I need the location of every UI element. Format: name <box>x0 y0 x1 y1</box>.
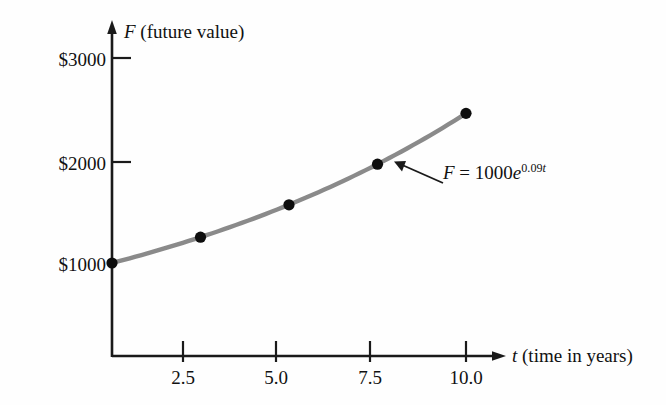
x-tick-label-2point5: 2.5 <box>153 368 213 387</box>
x-axis-arrowhead <box>492 351 506 361</box>
equation-equals: = 1000 <box>455 162 513 183</box>
x-tick-label-5point0: 5.0 <box>246 368 306 387</box>
equation-annotation: F = 1000e0.09t <box>443 163 546 182</box>
equation-exponent-number: 0.09 <box>521 161 542 175</box>
x-axis-title-text: (time in years) <box>517 345 633 366</box>
equation-lhs-symbol: F <box>443 162 455 183</box>
data-point-t7point5 <box>372 159 383 170</box>
y-axis-arrowhead <box>107 20 117 34</box>
x-tick-label-10point0: 10.0 <box>436 368 496 387</box>
x-tick-label-7point5: 7.5 <box>340 368 400 387</box>
y-tick-label-1000: $1000 <box>28 255 106 274</box>
y-axis-symbol: F <box>124 21 136 42</box>
figure-container: F (future value) t (time in years) $3000… <box>0 0 666 405</box>
data-point-t0 <box>106 257 117 268</box>
equation-exponent-symbol: t <box>543 161 546 175</box>
equation-exponent: 0.09t <box>521 161 546 175</box>
x-axis-title: t (time in years) <box>512 346 633 365</box>
data-point-t2point5 <box>195 232 206 243</box>
y-tick-label-2000: $2000 <box>28 154 106 173</box>
exponential-curve <box>112 113 466 263</box>
y-tick-label-3000: $3000 <box>28 50 106 69</box>
data-point-t10point0 <box>460 108 471 119</box>
y-axis-title-text: (future value) <box>136 21 245 42</box>
data-point-t5point0 <box>283 199 294 210</box>
y-axis-title: F (future value) <box>124 22 244 41</box>
equation-base-symbol: e <box>513 162 521 183</box>
annotation-leader-line <box>400 164 443 183</box>
